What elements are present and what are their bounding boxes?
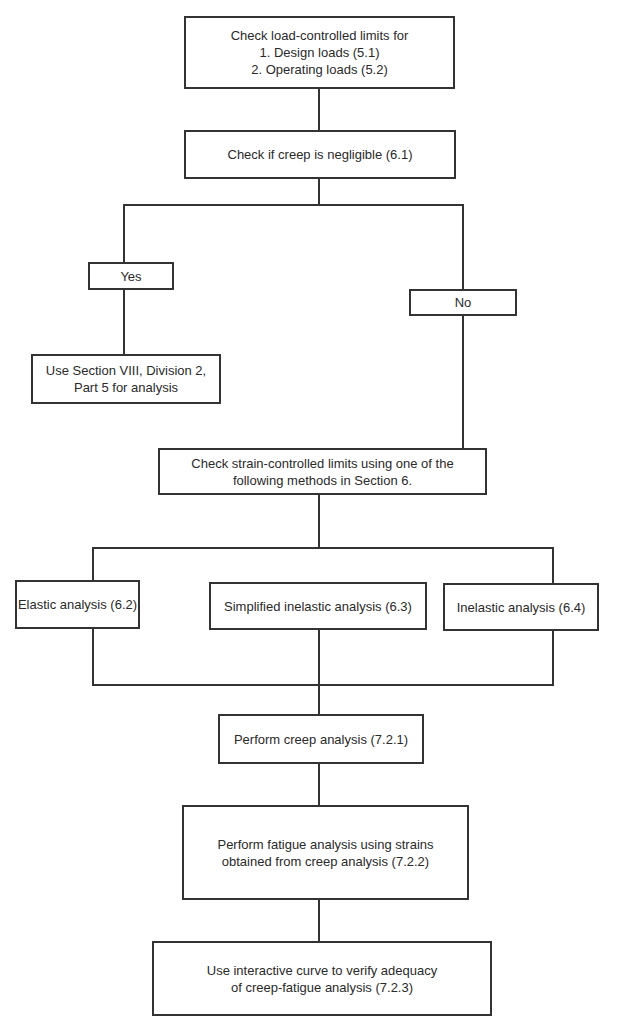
- interactive-curve-line1: Use interactive curve to verify adequacy: [207, 962, 438, 979]
- interactive-curve-box: Use interactive curve to verify adequacy…: [152, 941, 492, 1016]
- section-viii-box: Use Section VIII, Division 2, Part 5 for…: [31, 354, 221, 404]
- no-label: No: [455, 294, 472, 311]
- method-simplified-inelastic: Simplified inelastic analysis (6.3): [224, 598, 412, 615]
- load-limits-line3: 2. Operating loads (5.2): [231, 61, 409, 78]
- connector: [318, 88, 320, 130]
- connector: [92, 547, 554, 549]
- connector: [123, 204, 125, 262]
- section-viii-line2: Part 5 for analysis: [46, 379, 206, 396]
- inelastic-analysis-box: Inelastic analysis (6.4): [443, 583, 599, 631]
- load-limits-line2: 1. Design loads (5.1): [231, 44, 409, 61]
- method-elastic: Elastic analysis (6.2): [18, 596, 137, 613]
- connector: [318, 178, 320, 206]
- no-box: No: [409, 289, 517, 316]
- strain-limits-line2: following methods in Section 6.: [191, 472, 453, 489]
- method-inelastic: Inelastic analysis (6.4): [457, 599, 586, 616]
- connector: [318, 494, 320, 548]
- yes-label: Yes: [120, 268, 141, 285]
- connector: [92, 547, 94, 581]
- connector: [92, 627, 94, 685]
- fatigue-analysis-box: Perform fatigue analysis using strains o…: [182, 805, 469, 900]
- fatigue-line1: Perform fatigue analysis using strains: [217, 836, 433, 853]
- load-controlled-limits-box: Check load-controlled limits for 1. Desi…: [184, 16, 455, 89]
- connector: [318, 628, 320, 714]
- connector: [552, 630, 554, 686]
- interactive-curve-line2: of creep-fatigue analysis (7.2.3): [207, 979, 438, 996]
- elastic-analysis-box: Elastic analysis (6.2): [15, 580, 140, 629]
- section-viii-line1: Use Section VIII, Division 2,: [46, 362, 206, 379]
- load-limits-line1: Check load-controlled limits for: [231, 27, 409, 44]
- strain-controlled-limits-box: Check strain-controlled limits using one…: [158, 448, 487, 495]
- simplified-inelastic-analysis-box: Simplified inelastic analysis (6.3): [209, 582, 427, 630]
- connector: [552, 547, 554, 583]
- creep-negligible-box: Check if creep is negligible (6.1): [184, 130, 456, 179]
- connector: [92, 684, 554, 686]
- strain-limits-line1: Check strain-controlled limits using one…: [191, 455, 453, 472]
- connector: [462, 315, 464, 450]
- creep-analysis-text: Perform creep analysis (7.2.1): [234, 731, 408, 748]
- yes-box: Yes: [88, 262, 174, 290]
- creep-analysis-box: Perform creep analysis (7.2.1): [218, 714, 424, 764]
- connector: [318, 762, 320, 806]
- fatigue-line2: obtained from creep analysis (7.2.2): [217, 853, 433, 870]
- creep-check-text: Check if creep is negligible (6.1): [228, 146, 413, 163]
- connector: [462, 204, 464, 290]
- connector: [318, 898, 320, 942]
- connector: [123, 204, 464, 206]
